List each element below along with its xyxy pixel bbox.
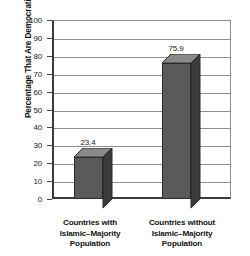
category-label-1-line-1: Countries with (48, 218, 132, 229)
y-tick-label-100: 100 (12, 16, 42, 25)
bar-side-face-1 (102, 148, 116, 210)
gridline-90 (54, 39, 230, 40)
category-label-1-line-2: Islamic–Majority (48, 229, 132, 240)
bar-value-label-2: 75.9 (153, 44, 199, 53)
category-label-1: Countries with Islamic–Majority Populati… (48, 218, 132, 250)
y-tick-label-60: 60 (12, 88, 42, 97)
category-label-1-line-3: Population (48, 239, 132, 250)
bar-value-label-1: 23.4 (65, 138, 111, 147)
y-tick-mark-0 (47, 199, 52, 200)
y-tick-label-90: 90 (12, 34, 42, 43)
y-tick-label-50: 50 (12, 106, 42, 115)
y-tick-label-80: 80 (12, 52, 42, 61)
y-tick-label-10: 10 (12, 177, 42, 186)
y-tick-label-70: 70 (12, 70, 42, 79)
bar-side-face-2 (190, 54, 204, 210)
bar-front-face-1 (74, 157, 103, 199)
category-label-2-line-1: Countries without (136, 218, 228, 229)
y-tick-label-0: 0 (12, 195, 42, 204)
bar-front-face-2 (162, 63, 191, 199)
y-tick-label-30: 30 (12, 141, 42, 150)
category-label-2: Countries without Islamic–Majority Popul… (136, 218, 228, 250)
y-tick-label-40: 40 (12, 123, 42, 132)
category-label-2-line-3: Population (136, 239, 228, 250)
y-tick-label-20: 20 (12, 159, 42, 168)
category-label-2-line-2: Islamic–Majority (136, 229, 228, 240)
bar-chart: Percentage That Are Democratic 100 90 80… (0, 0, 250, 256)
